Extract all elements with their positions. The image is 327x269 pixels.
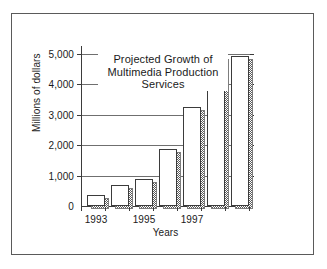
y-axis-line — [81, 46, 82, 206]
y-tick — [77, 84, 81, 85]
bar-face — [183, 107, 201, 206]
chart-title-line-2: Multimedia Production — [98, 66, 228, 79]
y-tick — [77, 145, 81, 146]
bar-1995 — [135, 179, 153, 206]
bar-1993 — [87, 195, 105, 206]
y-tick — [77, 115, 81, 116]
bar-face — [231, 56, 249, 206]
y-tick-label: 4,000 — [48, 79, 74, 90]
x-tick — [81, 207, 82, 211]
chart-title-line-1: Projected Growth of — [98, 53, 228, 66]
x-tick — [129, 207, 130, 211]
figure-frame: Millions of dollars Years 5,000 4,000 3,… — [11, 13, 314, 255]
x-tick-label-1997: 1997 — [181, 214, 204, 225]
bar-face — [135, 179, 153, 206]
x-tick — [249, 207, 250, 211]
x-tick — [153, 207, 154, 211]
bar-1997 — [183, 107, 201, 206]
x-tick — [105, 207, 106, 211]
bar-1996 — [159, 149, 177, 206]
y-tick — [77, 54, 81, 55]
bar-face — [111, 185, 129, 206]
y-tick-label: 2,000 — [48, 140, 74, 151]
y-tick-label: 0 — [68, 201, 74, 212]
x-axis-title: Years — [81, 227, 250, 238]
chart-title-line-3: Services — [98, 78, 228, 91]
y-tick-label: 5,000 — [48, 49, 74, 60]
x-tick — [225, 207, 226, 211]
y-tick — [77, 176, 81, 177]
bar-1994 — [111, 185, 129, 206]
x-tick-label-1995: 1995 — [133, 214, 156, 225]
x-tick — [177, 207, 178, 211]
y-tick-label: 1,000 — [48, 171, 74, 182]
bar-face — [159, 149, 177, 206]
bar-face — [87, 195, 105, 206]
y-tick-label: 3,000 — [48, 110, 74, 121]
y-tick-right — [250, 54, 254, 55]
bar-chart: Millions of dollars Years 5,000 4,000 3,… — [12, 14, 315, 256]
x-tick-label-1993: 1993 — [85, 214, 108, 225]
bar-1999 — [231, 56, 249, 206]
chart-title: Projected Growth of Multimedia Productio… — [98, 53, 228, 91]
y-axis-title: Millions of dollars — [31, 53, 42, 132]
x-tick — [201, 207, 202, 211]
